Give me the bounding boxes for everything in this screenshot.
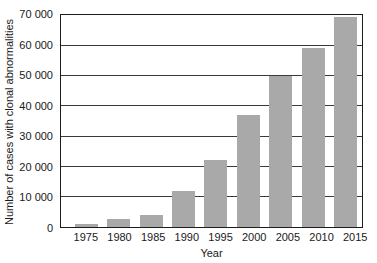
x-tick-label: 2005 [271, 231, 305, 244]
y-tick-label: 40 000 [0, 100, 53, 112]
x-tick-label: 2000 [237, 231, 271, 244]
x-tick-label: 1985 [136, 231, 170, 244]
y-tick-label: 30 000 [0, 130, 53, 142]
y-tick-label: 50 000 [0, 69, 53, 81]
y-tick-label: 0 [0, 222, 53, 234]
y-tick-label: 60 000 [0, 39, 53, 51]
y-axis-tick-labels: 70 00060 00050 00040 00030 00020 00010 0… [0, 14, 56, 228]
bar-series [61, 15, 362, 227]
bar [107, 219, 130, 227]
x-tick-label: 1990 [170, 231, 204, 244]
y-tick-label: 10 000 [0, 191, 53, 203]
bar [204, 160, 227, 227]
bar-slot [265, 15, 297, 227]
bar-slot [70, 15, 102, 227]
bar-slot [102, 15, 134, 227]
x-tick-label: 1980 [103, 231, 137, 244]
bar-slot [232, 15, 264, 227]
bar-slot [200, 15, 232, 227]
y-tick-label: 70 000 [0, 8, 53, 20]
bar-slot [135, 15, 167, 227]
bar-slot [330, 15, 362, 227]
x-axis-tick-labels: 197519801985199019952000200520102015 [60, 231, 372, 244]
x-tick-label: 2015 [338, 231, 372, 244]
bar [140, 215, 163, 227]
bar [334, 17, 357, 227]
bar-chart: Number of cases with clonal abnormalitie… [0, 0, 377, 263]
x-tick-label: 1995 [204, 231, 238, 244]
plot-area [60, 14, 363, 228]
bar-slot [297, 15, 329, 227]
x-tick-label: 2010 [305, 231, 339, 244]
x-axis-title: Year [60, 246, 363, 260]
bar [302, 48, 325, 227]
x-tick-label: 1975 [69, 231, 103, 244]
bar-slot [167, 15, 199, 227]
bar [237, 115, 260, 227]
bar [172, 191, 195, 227]
bar [75, 224, 98, 227]
y-tick-label: 20 000 [0, 161, 53, 173]
bar [269, 76, 292, 227]
